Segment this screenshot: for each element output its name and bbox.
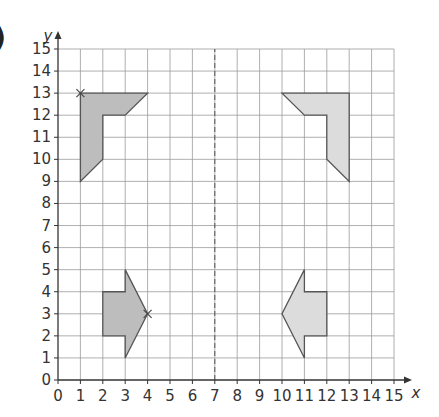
y-tick-label: 6 bbox=[41, 239, 51, 257]
x-tick-label: 12 bbox=[317, 387, 336, 405]
x-tick-label: 0 bbox=[53, 387, 63, 405]
x-tick-label: 10 bbox=[272, 387, 291, 405]
x-tick-label: 3 bbox=[120, 387, 130, 405]
x-axis-arrow-icon bbox=[404, 377, 412, 384]
y-tick-label: 8 bbox=[41, 194, 51, 212]
chart-canvas: 0123456789101112131415012345678910111213… bbox=[0, 0, 439, 417]
x-tick-label: 4 bbox=[143, 387, 153, 405]
y-tick-label: 7 bbox=[41, 217, 51, 235]
y-tick-label: 11 bbox=[32, 128, 51, 146]
x-tick-label: 5 bbox=[165, 387, 175, 405]
y-tick-label: 13 bbox=[32, 84, 51, 102]
y-tick-label: 5 bbox=[41, 261, 51, 279]
shape-polygon bbox=[103, 270, 148, 358]
y-tick-label: 0 bbox=[41, 371, 51, 389]
x-axis-label: x bbox=[411, 384, 421, 402]
x-tick-label: 1 bbox=[76, 387, 86, 405]
y-axis-arrow-icon bbox=[55, 31, 62, 39]
question-label: ) bbox=[0, 22, 6, 52]
y-axis-label: y bbox=[43, 27, 54, 45]
y-tick-label: 3 bbox=[41, 305, 51, 323]
y-tick-label: 2 bbox=[41, 327, 51, 345]
x-tick-label: 13 bbox=[340, 387, 359, 405]
x-tick-label: 6 bbox=[188, 387, 198, 405]
x-tick-label: 7 bbox=[210, 387, 220, 405]
x-tick-label: 8 bbox=[232, 387, 242, 405]
y-tick-label: 12 bbox=[32, 106, 51, 124]
y-tick-label: 9 bbox=[41, 172, 51, 190]
x-tick-label: 15 bbox=[384, 387, 403, 405]
x-tick-label: 2 bbox=[98, 387, 108, 405]
y-tick-label: 14 bbox=[32, 62, 51, 80]
shape-polygon bbox=[282, 270, 327, 358]
y-tick-label: 1 bbox=[41, 349, 51, 367]
x-tick-label: 9 bbox=[255, 387, 265, 405]
x-tick-label: 14 bbox=[362, 387, 381, 405]
coordinate-grid-figure: ) 01234567891011121314150123456789101112… bbox=[0, 0, 439, 417]
y-tick-label: 4 bbox=[41, 283, 51, 301]
x-tick-label: 11 bbox=[295, 387, 314, 405]
y-tick-label: 10 bbox=[32, 150, 51, 168]
